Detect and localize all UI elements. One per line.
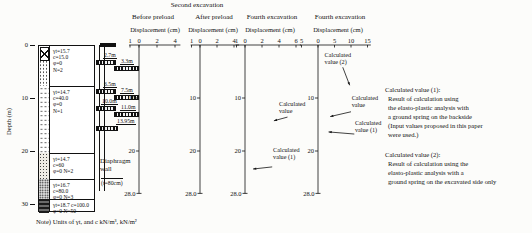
depth-tick-mark <box>30 204 35 205</box>
chart-1-xaxis-label: Displacement (cm) <box>130 26 180 33</box>
svg-text:10: 10 <box>308 94 315 101</box>
svg-text:0: 0 <box>316 37 319 44</box>
calculated-value-2-note: Calculated value (2): Result of calculat… <box>385 150 531 186</box>
fill-pattern-icon <box>40 47 49 61</box>
strut-bar <box>96 60 116 65</box>
svg-text:0: 0 <box>137 37 140 44</box>
strut-bar <box>96 126 118 131</box>
svg-text:28.0: 28.0 <box>303 190 314 197</box>
svg-text:2: 2 <box>155 37 158 44</box>
svg-text:Calculatedvalue: Calculatedvalue <box>352 94 379 108</box>
strut-depth-label: 11.0m <box>120 104 136 111</box>
chart-2-xaxis-label: Displacement (cm) <box>188 26 238 33</box>
svg-text:5: 5 <box>333 37 336 44</box>
svg-text:1: 1 <box>128 37 131 44</box>
svg-text:20: 20 <box>235 147 242 154</box>
chart-3-title: Fourth excavation <box>247 13 298 21</box>
svg-text:1: 1 <box>235 37 238 44</box>
strut-bar <box>96 89 116 94</box>
svg-text:0: 0 <box>198 37 201 44</box>
strut-bar <box>114 66 139 71</box>
svg-text:20: 20 <box>129 147 136 154</box>
svg-text:28.0: 28.0 <box>230 190 241 197</box>
depth-tick-mark <box>30 151 35 152</box>
chart-2-title: After preload <box>195 13 233 21</box>
svg-text:Calculatedvalue (2): Calculatedvalue (2) <box>325 51 352 66</box>
calculated-value-1-note: Calculated value (1): Result of calculat… <box>385 85 531 139</box>
strut-depth-label: 7.5m <box>120 87 134 94</box>
svg-text:15: 15 <box>364 37 371 44</box>
svg-text:28.0: 28.0 <box>185 190 196 197</box>
depth-tick-30: 30 <box>14 200 28 207</box>
svg-text:0: 0 <box>243 37 246 44</box>
soil-hatch-strip <box>39 46 50 211</box>
soil-layer-5-label: γt=18.7 c=100.0 φ=0 N=50 <box>50 199 94 213</box>
chart-4-xaxis-label: Displacement (cm) <box>313 26 363 33</box>
svg-text:Calculatedvalue (1): Calculatedvalue (1) <box>273 146 300 161</box>
group-header: Second excavation <box>171 1 224 9</box>
chart-4-title: Fourth excavation <box>315 13 366 21</box>
depth-tick-10: 10 <box>14 94 28 101</box>
strut-depth-label: 10.0m <box>101 98 118 105</box>
svg-text:2: 2 <box>260 37 263 44</box>
soil-layer-1-label: γt=15.7 c=15.0 φ=0 N=2 <box>50 46 94 86</box>
svg-text:20: 20 <box>308 147 315 154</box>
svg-text:28.0: 28.0 <box>124 190 135 197</box>
svg-text:10: 10 <box>235 94 242 101</box>
soil-layer-2-label: γt=14.7 c=40.0 φ=0 N=1 <box>50 86 94 153</box>
calculated-value-1-body: Result of calculation using the elasto-p… <box>385 94 531 139</box>
depth-tick-mark <box>30 45 35 46</box>
calculated-value-1-title: Calculated value (1): <box>385 85 531 94</box>
svg-text:1: 1 <box>190 37 193 44</box>
svg-text:10: 10 <box>348 37 355 44</box>
strut-depth-label: 6.5m <box>103 81 117 88</box>
strut-bar <box>96 106 116 111</box>
svg-text:20: 20 <box>190 147 197 154</box>
svg-text:4: 4 <box>173 37 177 44</box>
soil-column: γt=15.7 c=15.0 φ=0 N=2 γt=14.7 c=40.0 φ=… <box>38 45 95 212</box>
chart-1-title: Before preload <box>132 13 174 21</box>
soil-layer-3-label: γt=14.7 c=60 φ=0 N=2 <box>50 153 94 179</box>
strut-depth-label: 2.7m <box>103 52 117 59</box>
soil-hatch-layer2 <box>39 86 49 153</box>
soil-hatch-layer4 <box>39 179 49 199</box>
svg-text:2: 2 <box>215 37 218 44</box>
figure-page: Depth (m) 0 10 20 30 γt=15.7 c=15.0 φ=0 … <box>0 0 532 233</box>
chart-3-xaxis-label: Displacement (cm) <box>245 26 295 33</box>
svg-text:6: 6 <box>294 37 298 44</box>
strut-bar <box>114 112 139 117</box>
calculated-value-2-body: Result of calculation using the elasto-p… <box>385 159 531 186</box>
svg-text:Calculatedvalue (1): Calculatedvalue (1) <box>355 119 382 134</box>
depth-tick-20: 20 <box>14 147 28 154</box>
strut-bar <box>114 95 139 100</box>
svg-text:4: 4 <box>277 37 281 44</box>
wall-thickness-label: (t=80cm) <box>101 178 123 186</box>
calculated-value-2-title: Calculated value (2): <box>385 150 531 159</box>
wall-name-label: Diaphragm wall <box>100 157 131 172</box>
svg-text:4: 4 <box>232 37 236 44</box>
svg-text:5: 5 <box>300 37 303 44</box>
legend-notes: Calculated value (1): Result of calculat… <box>385 85 531 197</box>
svg-text:10: 10 <box>190 94 197 101</box>
svg-text:Calculatedvalue: Calculatedvalue <box>279 100 306 114</box>
depth-tick-mark <box>30 98 35 99</box>
strut-depth-label: 13.95m <box>116 118 136 125</box>
soil-hatch-layer5 <box>39 199 49 213</box>
depth-axis-label: Depth (m) <box>5 102 12 142</box>
strut-depth-label: 3.3m <box>120 58 134 65</box>
soil-layer-4-label: γt=16.7 c=80.0 φ=0 N=3 <box>50 179 94 199</box>
depth-tick-0: 0 <box>14 41 28 48</box>
units-note: Note) Units of γt, and c kN/m³, kN/m² <box>36 218 137 225</box>
soil-hatch-layer3 <box>39 153 49 179</box>
